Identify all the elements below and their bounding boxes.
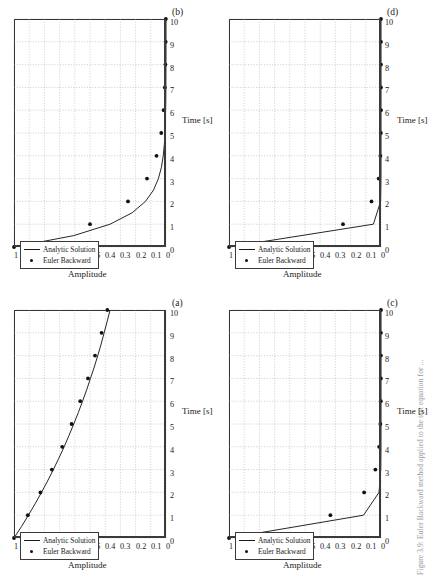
dot-swatch-icon <box>30 259 33 262</box>
legend-c: Analytic SolutionEuler Backward <box>235 532 314 560</box>
data-point <box>105 308 109 312</box>
x-axis-title: Time [s] <box>182 115 212 125</box>
y-tick-label: 0.1 <box>366 252 376 260</box>
data-point <box>93 354 97 358</box>
x-tick-label: 1 <box>385 515 389 523</box>
y-tick-label: 0.4 <box>320 252 330 260</box>
gridlines-a <box>14 310 166 538</box>
x-tick-label: 3 <box>385 179 389 187</box>
data-point <box>155 154 159 158</box>
legend-label: Analytic Solution <box>43 536 95 545</box>
data-point <box>145 177 149 181</box>
legend-label: Analytic Solution <box>258 245 310 254</box>
legend-entry: Analytic Solution <box>24 535 95 546</box>
x-tick-label: 7 <box>385 378 389 386</box>
x-tick-label: 5 <box>385 133 389 141</box>
data-point <box>341 222 345 226</box>
panel-label-b: (b) <box>172 7 183 17</box>
legend-a: Analytic SolutionEuler Backward <box>20 532 99 560</box>
y-tick-label: 0.4 <box>105 543 115 551</box>
plot-canvas-c <box>229 310 381 538</box>
x-tick-label: 0 <box>170 538 174 546</box>
y-tick-label: 0.3 <box>335 252 345 260</box>
y-axis-title: Amplitude <box>283 560 322 570</box>
x-tick-label: 8 <box>385 65 389 73</box>
x-tick-label: 6 <box>385 110 389 118</box>
subplot-inner-c: 01234567891000.10.20.30.40.50.60.70.80.9… <box>215 291 430 582</box>
x-tick-label: 5 <box>170 133 174 141</box>
legend-dot-key <box>239 256 255 265</box>
dot-swatch-icon <box>30 550 33 553</box>
legend-dot-key <box>239 547 255 556</box>
x-axis-title: Time [s] <box>397 406 427 416</box>
y-tick-label: 0.3 <box>335 543 345 551</box>
subplot-c: 01234567891000.10.20.30.40.50.60.70.80.9… <box>215 291 430 582</box>
legend-dot-key <box>24 256 40 265</box>
y-tick-label: 0.1 <box>151 252 161 260</box>
y-axis-title: Amplitude <box>68 560 107 570</box>
data-point <box>86 377 90 381</box>
plot-area-a <box>14 310 166 538</box>
legend-label: Euler Backward <box>43 547 91 556</box>
legend-entry: Euler Backward <box>239 546 310 557</box>
x-axis-spine-d <box>379 19 381 247</box>
line-swatch-icon <box>239 540 255 541</box>
subplot-inner-b: 01234567891000.10.20.30.40.50.60.70.80.9… <box>0 0 215 291</box>
dot-swatch-icon <box>245 259 248 262</box>
legend-line-key <box>239 536 255 545</box>
x-tick-label: 10 <box>385 19 393 27</box>
data-point <box>39 491 43 495</box>
data-point <box>159 131 163 135</box>
plot-area-b <box>14 19 166 247</box>
x-tick-label: 2 <box>170 201 174 209</box>
plot-area-c <box>229 310 381 538</box>
x-tick-label: 7 <box>170 87 174 95</box>
x-tick-label: 4 <box>170 156 174 164</box>
data-point <box>60 445 64 449</box>
x-tick-label: 4 <box>385 447 389 455</box>
y-tick-label: 0.2 <box>351 543 361 551</box>
dot-swatch-icon <box>245 550 248 553</box>
y-tick-label: 1 <box>14 543 18 551</box>
legend-entry: Analytic Solution <box>239 244 310 255</box>
x-axis-title: Time [s] <box>397 115 427 125</box>
y-tick-label: 0.2 <box>136 252 146 260</box>
data-point <box>370 200 374 204</box>
data-point <box>78 399 82 403</box>
legend-entry: Euler Backward <box>24 255 95 266</box>
legend-label: Euler Backward <box>258 547 306 556</box>
y-tick-label: 1 <box>229 252 233 260</box>
data-point <box>26 513 30 517</box>
legend-entry: Analytic Solution <box>24 244 95 255</box>
x-tick-label: 9 <box>385 42 389 50</box>
line-swatch-icon <box>24 540 40 541</box>
x-tick-label: 6 <box>170 110 174 118</box>
line-swatch-icon <box>24 249 40 250</box>
x-tick-label: 8 <box>385 356 389 364</box>
x-tick-label: 2 <box>385 201 389 209</box>
x-tick-label: 9 <box>385 333 389 341</box>
legend-b: Analytic SolutionEuler Backward <box>20 241 99 269</box>
x-axis-spine-c <box>379 310 381 538</box>
legend-entry: Analytic Solution <box>239 535 310 546</box>
legend-dot-key <box>24 547 40 556</box>
x-tick-label: 2 <box>385 492 389 500</box>
x-tick-label: 2 <box>170 492 174 500</box>
legend-d: Analytic SolutionEuler Backward <box>235 241 314 269</box>
plot-canvas-d <box>229 19 381 247</box>
legend-line-key <box>24 536 40 545</box>
y-axis-title: Amplitude <box>68 269 107 279</box>
y-tick-label: 0 <box>381 543 385 551</box>
x-axis-title: Time [s] <box>182 406 212 416</box>
x-tick-label: 3 <box>385 470 389 478</box>
y-tick-label: 0 <box>166 543 170 551</box>
x-tick-label: 4 <box>170 447 174 455</box>
panel-label-d: (d) <box>387 7 398 17</box>
y-axis-title: Amplitude <box>283 269 322 279</box>
x-tick-label: 6 <box>170 401 174 409</box>
y-tick-label: 0.1 <box>151 543 161 551</box>
panel-label-c: (c) <box>387 298 398 308</box>
data-point <box>50 468 54 472</box>
x-tick-label: 10 <box>385 310 393 318</box>
figure-page: Figure 3.9: Euler Backward method applie… <box>0 0 430 583</box>
